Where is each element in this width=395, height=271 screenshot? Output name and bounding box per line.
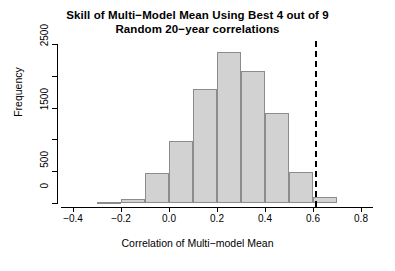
histogram-bar (193, 89, 217, 203)
x-axis-tick (313, 207, 314, 212)
x-axis-tick (361, 207, 362, 212)
x-axis-tick (121, 207, 122, 212)
x-axis-tick-label: 0.6 (293, 213, 333, 225)
x-axis-tick-label: −0.2 (101, 213, 141, 225)
histogram-bar (145, 173, 169, 203)
y-axis-tick-label-text: 500 (40, 151, 50, 168)
histogram-bar (265, 113, 289, 203)
x-axis-title: Correlation of Multi−model Mean (0, 237, 395, 249)
y-axis-tick-label-text: 1500 (40, 88, 50, 110)
plot-area: Frequency Correlation of Multi−model Mea… (0, 0, 395, 271)
x-axis-tick-label: 0.4 (245, 213, 285, 225)
histogram-bar (217, 52, 241, 203)
y-axis-tick (52, 108, 57, 109)
reference-line (315, 41, 317, 207)
y-axis-tick (52, 171, 57, 172)
histogram-bar (289, 172, 313, 203)
x-axis-tick (169, 207, 170, 212)
x-axis-tick-label: −0.4 (53, 213, 93, 225)
y-axis-title: Frequency (12, 52, 24, 132)
x-axis-tick (265, 207, 266, 212)
y-axis-tick (52, 203, 57, 204)
histogram-bar (169, 141, 193, 203)
histogram-bar (241, 71, 265, 203)
x-axis-tick (217, 207, 218, 212)
histogram-bar (97, 202, 121, 204)
x-axis-tick (73, 207, 74, 212)
histogram-bar (121, 199, 145, 203)
chart-figure: Skill of Multi−Model Mean Using Best 4 o… (0, 0, 395, 271)
x-axis-tick-label: 0.8 (341, 213, 381, 225)
y-axis-tick-label-text: 2500 (40, 24, 50, 46)
y-axis-tick (52, 76, 57, 77)
y-axis-tick (52, 44, 57, 45)
x-axis-tick-label: 0.2 (197, 213, 237, 225)
y-axis-tick (52, 139, 57, 140)
x-axis-tick-label: 0.0 (149, 213, 189, 225)
y-axis-line (57, 44, 58, 204)
y-axis-tick-label-text: 0 (40, 183, 50, 189)
